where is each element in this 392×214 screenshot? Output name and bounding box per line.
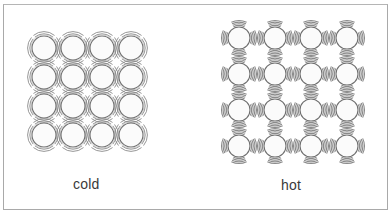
particle — [294, 21, 329, 56]
particle — [28, 119, 61, 152]
particle — [258, 57, 293, 92]
particle — [115, 61, 148, 94]
particle — [258, 21, 293, 56]
particle — [28, 61, 61, 94]
particle — [115, 90, 148, 123]
particle — [294, 129, 329, 164]
particle — [28, 90, 61, 123]
particle — [222, 21, 257, 56]
particle — [57, 32, 90, 65]
particle — [330, 129, 365, 164]
cold-particle-grid — [28, 32, 148, 152]
particle — [86, 32, 119, 65]
particle-diagram — [0, 0, 392, 214]
particle — [86, 90, 119, 123]
particle — [86, 61, 119, 94]
particle — [294, 93, 329, 128]
particle — [222, 129, 257, 164]
particle — [57, 90, 90, 123]
particle — [115, 119, 148, 152]
particle — [294, 57, 329, 92]
hot-particle-grid — [222, 21, 365, 164]
particle — [222, 93, 257, 128]
particle — [330, 57, 365, 92]
particle — [258, 93, 293, 128]
cold-label: cold — [73, 176, 99, 192]
particle — [258, 129, 293, 164]
particle — [330, 93, 365, 128]
particle — [57, 61, 90, 94]
particle — [330, 21, 365, 56]
particle — [86, 119, 119, 152]
particle — [57, 119, 90, 152]
hot-label: hot — [281, 177, 301, 193]
particle — [222, 57, 257, 92]
particle — [28, 32, 61, 65]
particle — [115, 32, 148, 65]
